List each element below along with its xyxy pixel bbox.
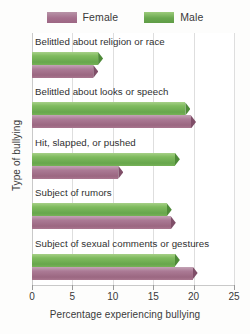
legend-item-female: Female xyxy=(47,11,119,23)
bar-body xyxy=(32,153,175,166)
male-legend-swatch xyxy=(144,12,174,23)
x-tick-label-20: 20 xyxy=(188,291,199,302)
bar-body xyxy=(32,65,93,78)
bar-group: Hit, slapped, or pushed xyxy=(32,134,234,184)
bar-cap xyxy=(93,65,98,78)
bar-male xyxy=(32,153,180,166)
legend-label-female: Female xyxy=(83,11,119,23)
category-label: Belittled about religion or race xyxy=(35,36,165,47)
bar-female xyxy=(32,115,196,128)
legend-item-male: Male xyxy=(144,11,203,23)
bar-cap xyxy=(185,102,190,115)
x-tick-label-0: 0 xyxy=(29,291,35,302)
bar-male xyxy=(32,203,172,216)
bar-body xyxy=(32,254,175,267)
bar-body xyxy=(32,52,98,65)
x-tick-10 xyxy=(113,285,114,290)
bar-female xyxy=(32,267,198,280)
x-axis-baseline xyxy=(32,285,235,286)
chart-legend: Female Male xyxy=(0,11,250,23)
x-tick-0 xyxy=(32,285,33,290)
bar-body xyxy=(32,216,171,229)
category-label: Subject of rumors xyxy=(35,187,112,198)
x-tick-label-15: 15 xyxy=(148,291,159,302)
bar-cap xyxy=(118,166,123,179)
bar-cap xyxy=(175,153,180,166)
bar-female xyxy=(32,216,176,229)
bar-male xyxy=(32,254,180,267)
bar-male xyxy=(32,52,103,65)
bar-chart: Female Male Belittled about religion or … xyxy=(0,0,250,334)
female-legend-swatch xyxy=(47,12,77,23)
bar-cap xyxy=(167,203,172,216)
bar-body xyxy=(32,115,191,128)
bar-group: Subject of sexual comments or gestures xyxy=(32,235,234,285)
category-label: Belittled about looks or speech xyxy=(35,86,169,97)
bar-cap xyxy=(171,216,176,229)
bar-body xyxy=(32,267,193,280)
x-axis-title: Percentage experiencing bullying xyxy=(0,309,250,320)
bar-group: Belittled about looks or speech xyxy=(32,83,234,133)
x-tick-25 xyxy=(234,285,235,290)
category-label: Hit, slapped, or pushed xyxy=(35,137,136,148)
bar-body xyxy=(32,166,118,179)
bar-male xyxy=(32,102,190,115)
category-label: Subject of sexual comments or gestures xyxy=(35,238,209,249)
x-tick-15 xyxy=(153,285,154,290)
bar-female xyxy=(32,166,123,179)
bar-cap xyxy=(191,115,196,128)
x-tick-label-5: 5 xyxy=(70,291,76,302)
y-axis-title: Type of bullying xyxy=(11,86,22,226)
x-tick-5 xyxy=(72,285,73,290)
x-tick-20 xyxy=(194,285,195,290)
bar-cap xyxy=(98,52,103,65)
plot-area: Belittled about religion or raceBelittle… xyxy=(32,33,234,285)
x-tick-label-25: 25 xyxy=(228,291,239,302)
bar-female xyxy=(32,65,98,78)
bar-group: Subject of rumors xyxy=(32,184,234,234)
bar-body xyxy=(32,203,167,216)
gridline-25 xyxy=(234,33,235,285)
x-tick-label-10: 10 xyxy=(107,291,118,302)
bar-cap xyxy=(193,267,198,280)
bar-group: Belittled about religion or race xyxy=(32,33,234,83)
legend-label-male: Male xyxy=(180,11,203,23)
bar-cap xyxy=(175,254,180,267)
bar-body xyxy=(32,102,185,115)
